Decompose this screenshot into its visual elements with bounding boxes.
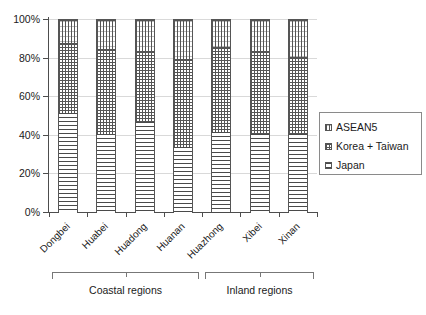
x-tick-mark	[317, 212, 318, 217]
segment-xibei-korea-taiwan[interactable]	[251, 51, 269, 134]
segment-huanan-korea-taiwan[interactable]	[174, 59, 192, 148]
bar-xibei[interactable]	[250, 19, 270, 212]
segment-xinan-korea-taiwan[interactable]	[289, 57, 307, 134]
japan-swatch-icon	[325, 162, 332, 169]
bar-huabei[interactable]	[96, 19, 116, 212]
bar-huadong[interactable]	[135, 19, 155, 212]
legend-item-japan: Japan	[325, 156, 421, 175]
x-tick-mark	[279, 212, 280, 217]
bar-dongbei[interactable]	[58, 19, 78, 212]
segment-xibei-japan[interactable]	[251, 134, 269, 213]
legend-label-korea-taiwan: Korea + Taiwan	[336, 141, 408, 152]
segment-huadong-korea-taiwan[interactable]	[136, 51, 154, 122]
segment-huabei-asean5[interactable]	[97, 20, 115, 49]
x-tick-mark	[164, 212, 165, 217]
segment-xinan-asean5[interactable]	[289, 20, 307, 57]
legend: ASEAN5 Korea + Taiwan Japan	[319, 112, 422, 175]
segment-huadong-japan[interactable]	[136, 122, 154, 213]
korea-taiwan-swatch-icon	[325, 143, 332, 150]
segment-huabei-korea-taiwan[interactable]	[97, 49, 115, 134]
legend-label-japan: Japan	[336, 160, 365, 171]
y-tick-label-100%: 100%	[0, 14, 40, 24]
legend-item-korea-taiwan: Korea + Taiwan	[325, 137, 421, 156]
y-tick-label-20%: 20%	[0, 168, 40, 178]
stacked-bar-chart: 0%20%40%60%80%100% DongbeiHuabeiHuadongH…	[0, 0, 426, 315]
bar-huazhong[interactable]	[211, 19, 231, 212]
legend-item-asean5: ASEAN5	[325, 118, 421, 137]
asean5-swatch-icon	[325, 124, 332, 131]
segment-dongbei-korea-taiwan[interactable]	[59, 43, 77, 112]
bracket-center-tick	[260, 272, 261, 277]
group-label-inland-regions: Inland regions	[205, 284, 314, 296]
y-tick-label-80%: 80%	[0, 53, 40, 63]
bar-xinan[interactable]	[288, 19, 308, 212]
segment-huazhong-korea-taiwan[interactable]	[212, 47, 230, 132]
legend-label-asean5: ASEAN5	[336, 122, 377, 133]
y-tick-label-40%: 40%	[0, 130, 40, 140]
segment-huanan-asean5[interactable]	[174, 20, 192, 59]
segment-dongbei-japan[interactable]	[59, 113, 77, 213]
bracket-center-tick	[126, 272, 127, 277]
x-tick-mark	[87, 212, 88, 217]
plot-area	[49, 19, 317, 212]
segment-huadong-asean5[interactable]	[136, 20, 154, 51]
y-tick-label-0%: 0%	[0, 207, 40, 217]
segment-huazhong-japan[interactable]	[212, 132, 230, 213]
segment-xibei-asean5[interactable]	[251, 20, 269, 51]
x-tick-mark	[126, 212, 127, 217]
segment-huanan-japan[interactable]	[174, 147, 192, 213]
bar-huanan[interactable]	[173, 19, 193, 212]
y-tick-label-60%: 60%	[0, 91, 40, 101]
x-tick-mark	[49, 212, 50, 217]
segment-huabei-japan[interactable]	[97, 134, 115, 213]
x-tick-mark	[240, 212, 241, 217]
segment-huazhong-asean5[interactable]	[212, 20, 230, 47]
x-tick-mark	[202, 212, 203, 217]
segment-xinan-japan[interactable]	[289, 134, 307, 213]
segment-dongbei-asean5[interactable]	[59, 20, 77, 43]
group-label-coastal-regions: Coastal regions	[52, 284, 199, 296]
